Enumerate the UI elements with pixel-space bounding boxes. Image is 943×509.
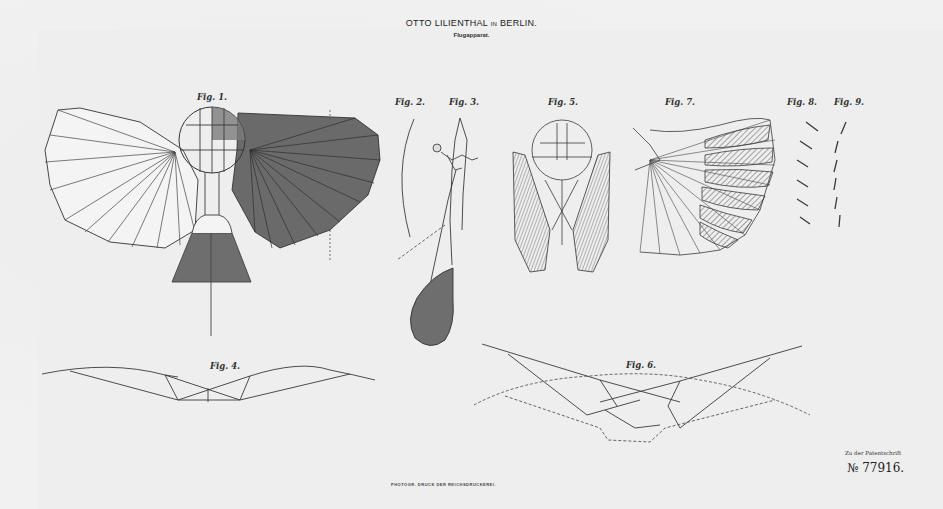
- patent-sheet: OTTO LILIENTHAL IN BERLIN. Flugapparat. …: [0, 0, 943, 509]
- figure-3-side-view: [397, 118, 478, 346]
- printer-imprint: PHOTOGR. DRUCK DER REICHSDRUCKEREI.: [391, 482, 496, 487]
- patent-drawings: [0, 0, 943, 509]
- figure-4-front-view: [42, 366, 375, 402]
- figure-8-slats: [797, 122, 818, 224]
- figure-5-folded-wings: [513, 120, 610, 272]
- patent-number: № 77916.: [847, 461, 904, 475]
- figure-7-flap-wing: [633, 118, 775, 255]
- figure-6-front-positions: [474, 344, 810, 442]
- patent-reference-note: Zu der Patentschrift: [845, 450, 901, 456]
- figure-9-slats: [834, 122, 846, 227]
- figure-2-rib-profile: [402, 119, 414, 237]
- figure-1-top-view: [45, 107, 380, 336]
